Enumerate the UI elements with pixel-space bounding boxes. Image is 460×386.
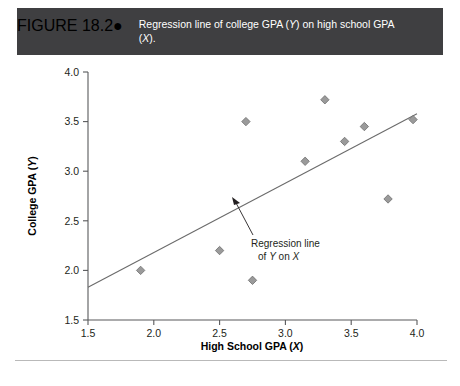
y-tick-label: 4.0 [64,66,79,78]
x-tick-label: 4.0 [410,327,425,339]
annotation-label-line-2: of Y on X [258,251,299,262]
data-point-marker [409,115,417,123]
x-tick-label: 2.5 [212,327,227,339]
data-point-marker [215,246,223,254]
x-tick-label: 2.0 [146,327,161,339]
figure-caption-line-1: Regression line of college GPA (Y) on hi… [139,18,371,30]
x-tick-label: 3.5 [344,327,359,339]
y-tick-label: 1.5 [64,314,79,326]
data-point-marker [360,122,368,130]
data-point-marker [301,157,309,165]
annotation-label-line-1: Regression line [251,238,320,249]
annotation-of: of [258,251,269,262]
x-axis-ticks: 1.52.02.53.03.54.0 [81,320,425,339]
data-point-marker [340,137,348,145]
annotation-x: X [291,251,299,262]
annotation-on: on [276,251,293,262]
x-axis-title: High School GPA (X) [201,340,304,352]
data-point-marker [384,195,392,203]
y-tick-label: 3.0 [64,165,79,177]
annotation-arrow-shaft [235,201,253,235]
chart-plot-area: 1.52.02.53.03.54.0 1.52.02.53.03.54.0 Re… [0,55,460,355]
data-point-marker [248,276,256,284]
figure-caption: Regression line of college GPA (Y) on hi… [139,17,407,45]
bottom-divider-rule [15,360,447,361]
y-axis-ticks: 1.52.02.53.03.54.0 [64,66,88,326]
figure-header-banner: FIGURE 18.2 ● Regression line of college… [17,8,443,55]
figure-number: FIGURE 18.2 [17,17,113,35]
annotation-arrow [232,197,253,235]
y-tick-label: 2.5 [64,215,79,227]
y-tick-label: 2.0 [64,264,79,276]
data-point-marker [136,266,144,274]
annotation-arrow-head-icon [232,197,240,205]
x-tick-label: 1.5 [81,327,96,339]
regression-line [88,114,417,288]
bullet-separator-icon: ● [113,17,123,35]
data-point-marker [321,96,329,104]
scatter-plot-svg: 1.52.02.53.03.54.0 1.52.02.53.03.54.0 Re… [0,55,460,355]
y-axis-title: College GPA (Y) [26,156,38,235]
y-tick-label: 3.5 [64,115,79,127]
data-point-marker [242,117,250,125]
x-tick-label: 3.0 [278,327,293,339]
